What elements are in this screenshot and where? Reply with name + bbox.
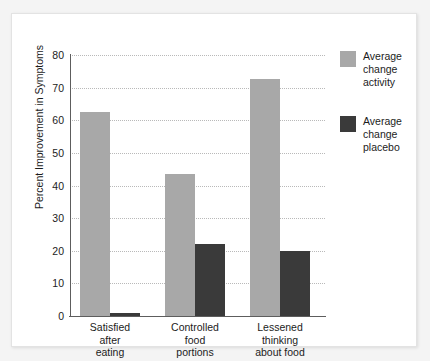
y-tick-label: 0 [38, 311, 64, 322]
bar [280, 251, 310, 316]
legend-label: Average change activity [363, 50, 426, 89]
legend-entry: Average change placebo [340, 115, 426, 157]
y-axis-title: Percent Improvement in Symptoms [33, 37, 45, 217]
x-tick-label-line: eating [65, 346, 155, 359]
x-tick-label: Controlledfoodportions [150, 321, 240, 359]
chart-legend: Average change activityAverage change pl… [340, 50, 426, 180]
bar [110, 313, 140, 316]
bar [165, 174, 195, 316]
bar [80, 112, 110, 316]
x-tick-label-line: about food [235, 346, 325, 359]
x-tick-label-line: Satisfied [65, 321, 155, 334]
x-tick-label-line: thinking [235, 334, 325, 347]
bar [195, 244, 225, 316]
legend-swatch [340, 51, 356, 67]
chart-figure: 01020304050607080 Percent Improvement in… [0, 0, 430, 361]
legend-label: Average change placebo [363, 115, 426, 154]
chart-card: 01020304050607080 Percent Improvement in… [11, 13, 417, 347]
x-axis-line [69, 316, 326, 317]
x-tick-label-line: food [150, 334, 240, 347]
y-tick-label: 10 [38, 278, 64, 289]
legend-swatch [340, 116, 356, 132]
bar [250, 79, 280, 316]
legend-entry: Average change activity [340, 50, 426, 92]
y-tick-label: 20 [38, 246, 64, 257]
x-tick-label-line: portions [150, 346, 240, 359]
x-tick-label-line: after [65, 334, 155, 347]
x-tick-label-line: Controlled [150, 321, 240, 334]
x-tick-label-line: Lessened [235, 321, 325, 334]
x-tick-label: Satisfiedaftereating [65, 321, 155, 359]
x-tick-label: Lessenedthinkingabout food [235, 321, 325, 359]
plot-area [70, 55, 325, 316]
